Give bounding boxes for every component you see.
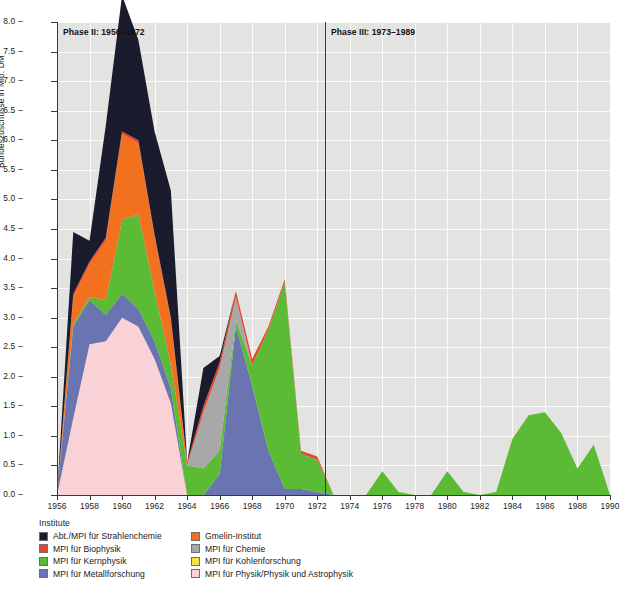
y-tick-mark xyxy=(51,406,57,407)
y-tick-mark xyxy=(51,22,57,23)
y-tick-mark xyxy=(51,347,57,348)
legend-item[interactable]: MPI für Kohlenforschung xyxy=(191,556,599,566)
x-tick-mark xyxy=(90,495,91,500)
chart-root: 0.0–0.5–1.0–1.5–2.0–2.5–3.0–3.5–4.0–4.5–… xyxy=(0,0,637,607)
legend-item[interactable]: MPI für Biophysik xyxy=(39,544,191,554)
legend: Institute Abt./MPI für StrahlenchemieGme… xyxy=(39,518,599,579)
y-tick-label: 0.5– xyxy=(0,459,23,469)
y-tick-mark xyxy=(51,259,57,260)
y-axis-title: Bundeszuschüsse in Mio. DM xyxy=(0,55,6,168)
legend-item-label: MPI für Biophysik xyxy=(53,544,121,554)
legend-color-swatch xyxy=(191,569,200,578)
legend-item[interactable]: Gmelin-Institut xyxy=(191,531,599,541)
y-tick-label: 0.0– xyxy=(0,489,23,499)
x-tick-mark xyxy=(415,495,416,500)
y-tick-label: 1.0– xyxy=(0,430,23,440)
x-tick-mark xyxy=(220,495,221,500)
legend-color-swatch xyxy=(39,569,48,578)
x-tick-mark xyxy=(155,495,156,500)
legend-item[interactable]: MPI für Metallforschung xyxy=(39,569,191,579)
y-tick-mark xyxy=(51,52,57,53)
y-tick-label: 4.0– xyxy=(0,253,23,263)
x-tick-mark xyxy=(512,495,513,500)
legend-color-swatch xyxy=(39,557,48,566)
x-tick-mark xyxy=(382,495,383,500)
y-tick-mark xyxy=(51,465,57,466)
y-tick-label: 2.0– xyxy=(0,371,23,381)
legend-item-label: MPI für Metallforschung xyxy=(53,569,145,579)
legend-color-swatch xyxy=(191,532,200,541)
y-tick-mark xyxy=(51,318,57,319)
y-tick-mark xyxy=(51,288,57,289)
x-axis-line xyxy=(57,495,610,496)
phase-divider-line xyxy=(325,22,326,495)
x-tick-mark xyxy=(317,495,318,500)
legend-color-swatch xyxy=(191,544,200,553)
legend-item[interactable]: MPI für Kernphysik xyxy=(39,556,191,566)
y-tick-mark xyxy=(51,436,57,437)
legend-item[interactable]: MPI für Chemie xyxy=(191,544,599,554)
y-tick-mark xyxy=(51,170,57,171)
y-tick-label: 1.5– xyxy=(0,400,23,410)
x-tick-mark xyxy=(57,495,58,500)
legend-item-label: Gmelin-Institut xyxy=(205,531,261,541)
y-tick-label: 8.0– xyxy=(0,16,23,26)
y-tick-label: 4.5– xyxy=(0,223,23,233)
legend-items: Abt./MPI für StrahlenchemieGmelin-Instit… xyxy=(39,531,599,579)
x-tick-mark xyxy=(480,495,481,500)
y-tick-mark xyxy=(51,199,57,200)
y-tick-label: 3.0– xyxy=(0,312,23,322)
x-tick-mark xyxy=(350,495,351,500)
x-tick-label: 1990 xyxy=(590,501,630,511)
stacked-area-series xyxy=(0,0,637,512)
y-tick-mark xyxy=(51,111,57,112)
phase-3-annotation: Phase III: 1973–1989 xyxy=(331,27,415,37)
legend-item-label: Abt./MPI für Strahlenchemie xyxy=(53,531,162,541)
y-tick-label: 5.0– xyxy=(0,193,23,203)
y-tick-mark xyxy=(51,81,57,82)
legend-item-label: MPI für Physik/Physik und Astrophysik xyxy=(205,569,353,579)
legend-item-label: MPI für Chemie xyxy=(205,544,265,554)
x-tick-mark xyxy=(285,495,286,500)
y-tick-mark xyxy=(51,140,57,141)
y-tick-mark xyxy=(51,377,57,378)
legend-color-swatch xyxy=(191,557,200,566)
legend-color-swatch xyxy=(39,532,48,541)
y-tick-label: 3.5– xyxy=(0,282,23,292)
x-tick-mark xyxy=(610,495,611,500)
x-tick-mark xyxy=(447,495,448,500)
x-tick-mark xyxy=(187,495,188,500)
legend-item[interactable]: MPI für Physik/Physik und Astrophysik xyxy=(191,569,599,579)
legend-item-label: MPI für Kohlenforschung xyxy=(205,556,301,566)
y-tick-label: 7.5– xyxy=(0,46,23,56)
x-tick-mark xyxy=(252,495,253,500)
y-axis-line xyxy=(57,22,58,495)
legend-item[interactable]: Abt./MPI für Strahlenchemie xyxy=(39,531,191,541)
plot-wrapper: 0.0–0.5–1.0–1.5–2.0–2.5–3.0–3.5–4.0–4.5–… xyxy=(0,0,637,512)
legend-color-swatch xyxy=(39,544,48,553)
legend-title: Institute xyxy=(39,518,599,528)
x-tick-mark xyxy=(545,495,546,500)
legend-item-label: MPI für Kernphysik xyxy=(53,556,127,566)
x-tick-mark xyxy=(577,495,578,500)
y-tick-label: 2.5– xyxy=(0,341,23,351)
y-tick-mark xyxy=(51,229,57,230)
x-tick-mark xyxy=(122,495,123,500)
phase-2-annotation: Phase II: 1956–1972 xyxy=(63,27,145,37)
